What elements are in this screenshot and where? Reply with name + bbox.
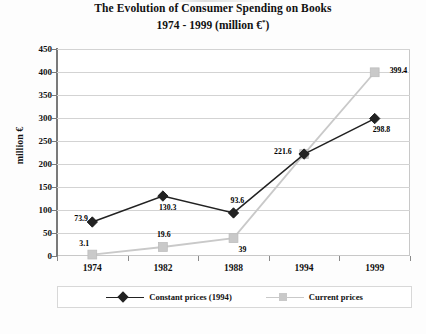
data-point-current-1982 [159,243,168,252]
legend-label-constant-prices: Constant prices (1994) [149,292,232,302]
data-point-constant-1974 [87,217,97,227]
data-label-constant-1982: 130.3 [159,203,177,212]
legend-label-current-prices: Current prices [309,292,363,302]
legend-key-square [266,292,304,302]
chart-legend: Constant prices (1994) Current prices [57,286,412,308]
data-label-current-1988: 39 [239,245,247,254]
series-layer [0,0,426,334]
data-label-current-1994: 221.6 [274,147,292,156]
data-label-constant-1974: 73.9 [74,214,88,223]
legend-item-constant-prices[interactable]: Constant prices (1994) [106,292,232,302]
data-point-constant-1999 [370,113,380,123]
data-label-constant-1988: 93.6 [231,196,245,205]
series-line-current-prices [92,72,374,254]
data-point-constant-1982 [158,191,168,201]
data-point-current-1974 [88,250,97,259]
data-point-current-1988 [229,234,238,243]
data-point-current-1999 [370,68,379,77]
legend-key-diamond [106,292,144,302]
data-label-current-1999: 399.4 [390,66,408,75]
data-label-constant-1999: 298.8 [373,125,391,134]
series-line-constant-prices [92,119,374,222]
data-label-current-1982: 19.6 [157,230,171,239]
data-label-current-1974: 3.1 [79,239,89,248]
chart-container: The Evolution of Consumer Spending on Bo… [0,0,426,334]
legend-item-current-prices[interactable]: Current prices [266,292,363,302]
